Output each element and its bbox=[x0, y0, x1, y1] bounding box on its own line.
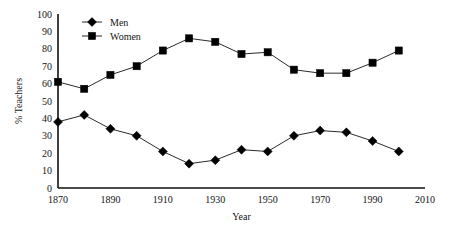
series-women bbox=[54, 35, 402, 93]
teachers-by-gender-line-chart: 0102030405060708090100 18701890191019301… bbox=[0, 0, 450, 231]
data-point-men-1880 bbox=[80, 110, 89, 119]
x-tick-label: 1890 bbox=[100, 194, 120, 205]
data-point-women-1920 bbox=[185, 35, 192, 42]
data-point-women-1880 bbox=[81, 85, 88, 92]
x-tick-label: 1990 bbox=[363, 194, 383, 205]
x-axis-title: Year bbox=[232, 211, 251, 222]
data-point-women-1890 bbox=[107, 71, 114, 78]
legend-marker-women bbox=[88, 32, 95, 39]
y-tick-label: 20 bbox=[42, 148, 52, 159]
chart-canvas: 0102030405060708090100 18701890191019301… bbox=[0, 0, 450, 231]
x-tick-label: 1910 bbox=[153, 194, 173, 205]
x-tick-label: 1930 bbox=[205, 194, 225, 205]
y-tick-label: 90 bbox=[42, 26, 52, 37]
series-line-women bbox=[58, 38, 399, 88]
data-point-men-1930 bbox=[211, 156, 220, 165]
data-point-men-1990 bbox=[368, 137, 377, 146]
x-tick-label: 1950 bbox=[258, 194, 278, 205]
legend-item-men: Men bbox=[82, 17, 128, 28]
data-point-men-1890 bbox=[106, 124, 115, 133]
data-point-women-1870 bbox=[54, 78, 61, 85]
data-point-men-1870 bbox=[54, 117, 63, 126]
series-line-men bbox=[58, 115, 399, 164]
data-point-women-1900 bbox=[133, 63, 140, 70]
data-point-men-1970 bbox=[316, 126, 325, 135]
data-point-men-1920 bbox=[185, 159, 194, 168]
legend-marker-men bbox=[88, 18, 97, 27]
legend-label-men: Men bbox=[110, 17, 128, 28]
data-point-women-1940 bbox=[238, 50, 245, 57]
data-point-women-1950 bbox=[264, 49, 271, 56]
data-point-women-1990 bbox=[369, 59, 376, 66]
data-point-women-1930 bbox=[212, 38, 219, 45]
data-point-men-2000 bbox=[394, 147, 403, 156]
y-tick-label: 70 bbox=[42, 61, 52, 72]
y-tick-label: 40 bbox=[42, 113, 52, 124]
data-series-group bbox=[54, 35, 404, 168]
y-axis: 0102030405060708090100 bbox=[37, 9, 58, 194]
legend-item-women: Women bbox=[82, 31, 141, 42]
data-point-women-1910 bbox=[159, 47, 166, 54]
data-point-women-1980 bbox=[343, 70, 350, 77]
series-men bbox=[54, 110, 404, 168]
data-point-men-1950 bbox=[263, 147, 272, 156]
data-point-men-1960 bbox=[289, 131, 298, 140]
data-point-women-1960 bbox=[290, 66, 297, 73]
legend-label-women: Women bbox=[110, 31, 141, 42]
x-tick-label: 1870 bbox=[48, 194, 68, 205]
y-tick-label: 100 bbox=[37, 9, 52, 20]
y-axis-title: % Teachers bbox=[13, 78, 24, 124]
y-tick-label: 60 bbox=[42, 78, 52, 89]
data-point-men-1980 bbox=[342, 128, 351, 137]
data-point-women-2000 bbox=[395, 47, 402, 54]
data-point-men-1940 bbox=[237, 145, 246, 154]
y-tick-label: 30 bbox=[42, 130, 52, 141]
x-axis: 18701890191019301950197019902010 bbox=[48, 188, 435, 205]
y-tick-label: 50 bbox=[42, 96, 52, 107]
data-point-men-1910 bbox=[158, 147, 167, 156]
y-tick-label: 0 bbox=[47, 183, 52, 194]
data-point-men-1900 bbox=[132, 131, 141, 140]
x-tick-label: 2010 bbox=[415, 194, 435, 205]
data-point-women-1970 bbox=[317, 70, 324, 77]
x-tick-label: 1970 bbox=[310, 194, 330, 205]
chart-legend: MenWomen bbox=[82, 17, 141, 42]
y-tick-label: 10 bbox=[42, 165, 52, 176]
y-tick-label: 80 bbox=[42, 43, 52, 54]
